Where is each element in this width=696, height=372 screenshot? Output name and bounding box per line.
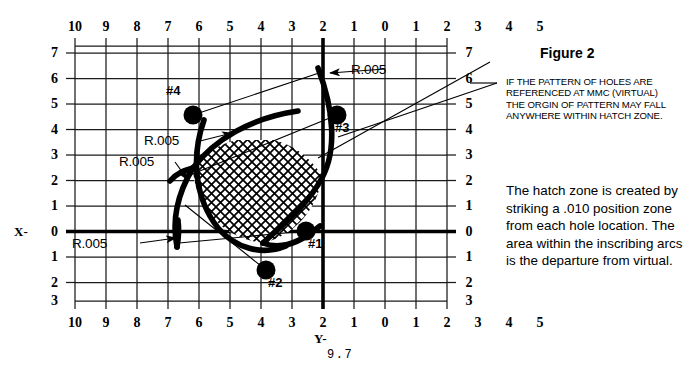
right-tick-10: 3 (460, 294, 478, 308)
callout-r005-mid-upper: R.005 (144, 133, 179, 148)
hole-3-label: #3 (335, 120, 349, 135)
bottom-tick-9: 1 (345, 316, 363, 330)
right-tick-2: 5 (460, 97, 478, 111)
left-tick-6: 1 (40, 199, 58, 213)
bottom-tick-1: 9 (97, 316, 115, 330)
bottom-tick-4: 6 (190, 316, 208, 330)
right-tick-0: 7 (460, 46, 478, 60)
arc-stub-bottom (177, 220, 179, 247)
top-tick-5: 5 (221, 20, 239, 34)
top-tick-4: 6 (190, 20, 208, 34)
right-tick-4: 3 (460, 148, 478, 162)
figure-canvas: 10 9 8 7 6 5 4 3 2 1 0 1 2 3 4 5 10 9 8 … (0, 0, 696, 372)
right-tick-9: 2 (460, 276, 478, 290)
leader-r005-bottom-left (140, 238, 176, 243)
bottom-tick-2: 8 (128, 316, 146, 330)
left-tick-5: 2 (40, 174, 58, 188)
top-tick-14: 4 (500, 20, 518, 34)
top-tick-3: 7 (159, 20, 177, 34)
bottom-tick-14: 4 (500, 316, 518, 330)
top-tick-12: 2 (438, 20, 456, 34)
bottom-tick-7: 3 (283, 316, 301, 330)
top-tick-7: 3 (283, 20, 301, 34)
left-tick-0: 7 (40, 46, 58, 60)
left-tick-1: 6 (40, 72, 58, 86)
y-axis-label: Y- (314, 331, 327, 347)
note-mmc-caps: IF THE PATTERN OF HOLES ARE REFERENCED A… (506, 76, 692, 122)
hole-4-label: #4 (166, 83, 180, 98)
top-tick-6: 4 (252, 20, 270, 34)
right-tick-8: 1 (460, 250, 478, 264)
right-tick-7: 0 (460, 225, 478, 239)
bottom-tick-8: 2 (314, 316, 332, 330)
figure-title: Figure 2 (540, 45, 594, 61)
left-tick-2: 5 (40, 97, 58, 111)
bottom-tick-0: 10 (66, 316, 84, 330)
top-tick-1: 9 (97, 20, 115, 34)
bottom-tick-11: 1 (407, 316, 425, 330)
right-tick-6: 1 (460, 199, 478, 213)
bottom-tick-10: 0 (376, 316, 394, 330)
top-tick-2: 8 (128, 20, 146, 34)
callout-r005-bottom-left: R.005 (72, 236, 107, 251)
left-tick-9: 2 (40, 276, 58, 290)
top-tick-0: 10 (66, 20, 84, 34)
left-tick-4: 3 (40, 148, 58, 162)
right-tick-5: 2 (460, 174, 478, 188)
x-axis-label: X- (14, 224, 28, 240)
left-tick-10: 3 (40, 294, 58, 308)
bottom-tick-12: 2 (438, 316, 456, 330)
bottom-tick-6: 4 (252, 316, 270, 330)
bottom-tick-5: 5 (221, 316, 239, 330)
right-tick-1: 6 (460, 72, 478, 86)
top-tick-13: 3 (469, 20, 487, 34)
bottom-tick-3: 7 (159, 316, 177, 330)
top-tick-10: 0 (376, 20, 394, 34)
left-tick-7: 0 (40, 225, 58, 239)
bottom-tick-15: 5 (531, 316, 549, 330)
top-tick-15: 5 (531, 20, 549, 34)
top-tick-11: 1 (407, 20, 425, 34)
top-tick-9: 1 (345, 20, 363, 34)
y-axis-value: 9.7 (327, 348, 353, 362)
callout-r005-mid-lower: R.005 (119, 154, 154, 169)
right-tick-3: 4 (460, 123, 478, 137)
top-tick-8: 2 (314, 20, 332, 34)
callout-r005-top-right: R.005 (351, 62, 386, 77)
hole-1-label: #1 (308, 236, 322, 251)
hole-4-marker[interactable] (184, 106, 203, 125)
left-tick-3: 4 (40, 123, 58, 137)
note-hatch-zone-body: The hatch zone is created by striking a … (506, 182, 692, 270)
hole-2-label: #2 (268, 275, 282, 290)
left-tick-8: 1 (40, 250, 58, 264)
bottom-tick-13: 3 (469, 316, 487, 330)
